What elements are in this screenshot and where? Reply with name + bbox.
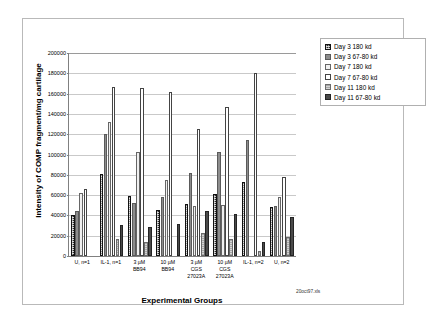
bar [229,239,232,256]
bar [234,214,237,256]
bar [156,210,159,256]
bar [120,225,123,256]
bar [128,196,131,256]
series-3-swatch [325,74,331,80]
bar [177,224,180,256]
legend-item-label: Day 7 67-80 kd [334,74,377,81]
bar [246,140,249,256]
footnote-label: 20oct97.xls [296,289,320,294]
bars-layer [69,53,296,256]
x-axis-tick-label: U, n=1 [68,259,97,280]
bar [79,193,82,256]
bar [116,239,119,256]
legend-item[interactable]: Day 3 67-80 kd [325,53,422,60]
bar [189,173,192,256]
bar-group [183,53,211,256]
bar-group [239,53,267,256]
chart-root: Intensity of COMP fragment/mg cartilage … [0,0,433,328]
legend-item-label: Day 3 67-80 kd [334,53,377,60]
bar [290,217,293,256]
y-axis-tick-label: 200000 [48,50,66,56]
y-axis-tick-label: 60000 [51,192,66,198]
bar [225,107,228,256]
legend-item[interactable]: Day 7 67-80 kd [325,74,422,81]
bar-group [69,53,97,256]
y-axis-tick-label: 120000 [48,131,66,137]
y-axis-title: Intensity of COMP fragment/mg cartilage [34,41,43,241]
bar [108,122,111,256]
bar [258,251,261,256]
bar-group [97,53,125,256]
y-axis-tick-label: 160000 [48,91,66,97]
x-axis-tick-labels: U, n=1IL-1, n=13 µM BB9410 µM BB943 µM C… [68,259,296,280]
y-axis-tick-label: 140000 [48,111,66,117]
bar [201,233,204,256]
x-axis-tick-label: 10 µM CGS 27023A [211,259,240,280]
bar [104,134,107,256]
bar [270,207,273,256]
series-5-swatch [325,94,331,100]
bar [140,88,143,256]
bar [165,180,168,256]
legend-item[interactable]: Day 3 180 kd [325,43,422,50]
bar [197,129,200,256]
legend-item-label: Day 11 67-80 kd [334,94,380,101]
x-axis-tick-label: 10 µM BB94 [154,259,183,280]
legend-item-label: Day 7 180 kd [334,63,372,70]
bar [75,211,78,256]
plot-area: 0200004000060000800001000001200001400001… [68,53,296,257]
bar [286,237,289,256]
y-axis-tick-label: 40000 [51,212,66,218]
y-axis-tick-mark [67,256,69,257]
bar [112,87,115,256]
bar [242,182,245,256]
series-0-swatch [325,44,331,50]
bar [136,152,139,256]
bar [132,203,135,256]
bar [282,177,285,256]
legend-item[interactable]: Day 7 180 kd [325,63,422,70]
x-axis-tick-label: 3 µM CGS 27023A [182,259,211,280]
bar [213,194,216,256]
bar [144,242,147,256]
bar [84,189,87,256]
y-axis-tick-label: 0 [63,253,66,259]
y-axis-tick-label: 180000 [48,70,66,76]
series-1-swatch [325,54,331,60]
bar [193,206,196,256]
bar [262,242,265,256]
series-4-swatch [325,84,331,90]
plot-wrapper: 0200004000060000800001000001200001400001… [68,53,296,257]
x-axis-tick-label: 3 µM BB94 [125,259,154,280]
bar [221,205,224,256]
x-axis-tick-label: IL-1, n=2 [239,259,268,280]
bar-group [211,53,239,256]
legend: Day 3 180 kdDay 3 67-80 kdDay 7 180 kdDa… [320,38,426,106]
bar [217,152,220,256]
bar [278,197,281,256]
legend-item-label: Day 3 180 kd [334,43,372,50]
bar-group [126,53,154,256]
bar [100,174,103,256]
bar [161,197,164,256]
y-axis-tick-label: 100000 [48,152,66,158]
bar [148,227,151,256]
bar [205,211,208,256]
bar [185,204,188,256]
bar [169,92,172,256]
bar-group [154,53,182,256]
legend-item[interactable]: Day 11 67-80 kd [325,94,422,101]
bar [254,73,257,256]
x-axis-tick-label: U, n=2 [268,259,297,280]
bar [274,206,277,256]
legend-item[interactable]: Day 11 180 kd [325,84,422,91]
legend-item-label: Day 11 180 kd [334,84,375,91]
x-axis-title: Experimental Groups [68,296,296,305]
y-axis-tick-label: 20000 [51,233,66,239]
x-axis-tick-label: IL-1, n=1 [97,259,126,280]
bar [71,215,74,256]
y-axis-tick-label: 80000 [51,172,66,178]
bar-group [268,53,296,256]
series-2-swatch [325,64,331,70]
